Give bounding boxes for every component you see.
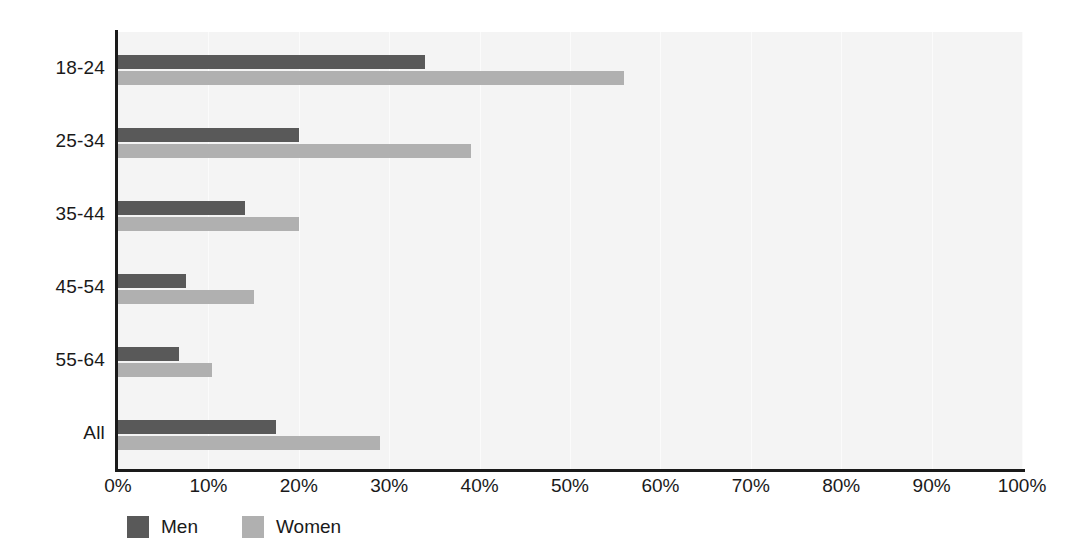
bar-group-25-34 [118,105,1022,178]
bar-women-45-54 [118,290,254,304]
legend-swatch-women [242,516,264,538]
x-tick-label-80: 80% [822,475,860,497]
y-tick-label-18-24: 18-24 [5,57,105,79]
x-tick-label-70: 70% [732,475,770,497]
bar-men-18-24 [118,55,425,69]
x-tick-label-90: 90% [913,475,951,497]
y-tick-label-45-54: 45-54 [5,276,105,298]
x-tick-label-60: 60% [641,475,679,497]
legend-item-women[interactable]: Women [242,516,341,538]
x-axis-line [115,469,1025,472]
x-tick-label-20: 20% [280,475,318,497]
y-tick-label-35-44: 35-44 [5,203,105,225]
x-tick-label-40: 40% [461,475,499,497]
x-tick-label-0: 0% [104,475,131,497]
gridline [1022,32,1023,470]
bar-women-35-44 [118,217,299,231]
bar-men-all [118,420,276,434]
bar-men-45-54 [118,274,186,288]
bar-men-55-64 [118,347,179,361]
x-tick-label-10: 10% [189,475,227,497]
legend-label-men: Men [161,516,198,538]
bar-group-all [118,397,1022,470]
bar-group-45-54 [118,251,1022,324]
bar-group-55-64 [118,324,1022,397]
x-tick-label-50: 50% [551,475,589,497]
legend-label-women: Women [276,516,341,538]
x-axis-tick-labels: 0%10%20%30%40%50%60%70%80%90%100% [0,475,1087,505]
plot-area [118,32,1022,470]
bar-men-25-34 [118,128,299,142]
bar-group-18-24 [118,32,1022,105]
bar-men-35-44 [118,201,245,215]
y-tick-label-55-64: 55-64 [5,349,105,371]
legend-swatch-men [127,516,149,538]
bar-chart: 18-2425-3435-4445-5455-64All 0%10%20%30%… [0,0,1087,550]
y-tick-label-25-34: 25-34 [5,130,105,152]
y-axis-line [115,30,118,472]
chart-legend: MenWomen [127,516,341,538]
y-tick-label-all: All [5,422,105,444]
x-tick-label-100: 100% [998,475,1047,497]
x-tick-label-30: 30% [370,475,408,497]
bar-women-25-34 [118,144,471,158]
y-axis-tick-labels: 18-2425-3435-4445-5455-64All [0,32,105,470]
bar-group-35-44 [118,178,1022,251]
bar-women-55-64 [118,363,212,377]
bar-women-18-24 [118,71,624,85]
legend-item-men[interactable]: Men [127,516,198,538]
bar-women-all [118,436,380,450]
